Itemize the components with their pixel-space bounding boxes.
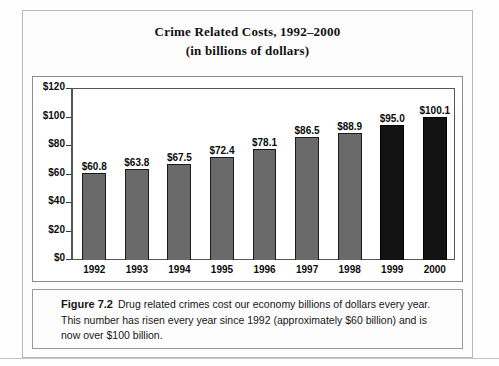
x-axis: 199219931994199519961997199819992000 [73, 262, 456, 280]
bar-value-label: $63.8 [124, 157, 149, 168]
bar-slot: $60.8 [73, 89, 116, 260]
bar-slot: $78.1 [243, 89, 286, 260]
figure-caption-box: Figure 7.2Drug related crimes cost our e… [32, 289, 463, 349]
bar-value-label: $67.5 [167, 152, 192, 163]
figure-caption-body: Drug related crimes cost our economy bil… [61, 298, 430, 341]
bar-value-label: $60.8 [82, 161, 107, 172]
y-axis: $120$100$80$60$40$20$0 [33, 88, 72, 260]
x-axis-tick-label: 1998 [328, 262, 371, 280]
chart-subtitle: (in billions of dollars) [22, 43, 473, 59]
y-axis-tick-label: $0 [54, 252, 65, 263]
x-axis-tick-label: 1992 [73, 262, 116, 280]
bar-slot: $86.5 [286, 89, 329, 260]
bar-1999[interactable]: $95.0 [380, 125, 404, 260]
y-axis-tick-label: $100 [43, 110, 65, 121]
bar-1998[interactable]: $88.9 [338, 133, 362, 260]
bar-value-label: $72.4 [209, 145, 234, 156]
y-axis-tick-label: $40 [48, 195, 65, 206]
bar-1993[interactable]: $63.8 [125, 169, 149, 260]
chart-title: Crime Related Costs, 1992–2000 [22, 24, 473, 40]
bar-1996[interactable]: $78.1 [253, 149, 277, 260]
x-axis-tick-label: 1994 [158, 262, 201, 280]
bar-1992[interactable]: $60.8 [82, 173, 106, 260]
chart-container: $120$100$80$60$40$20$0 $60.8$63.8$67.5$7… [32, 76, 463, 282]
x-axis-tick-label: 1995 [201, 262, 244, 280]
bar-1995[interactable]: $72.4 [210, 157, 234, 260]
bar-value-label: $88.9 [337, 121, 362, 132]
bar-slot: $63.8 [116, 89, 159, 260]
y-axis-tick-label: $120 [43, 81, 65, 92]
bar-value-label: $100.1 [419, 105, 450, 116]
scanned-page: Crime Related Costs, 1992–2000 (in billi… [0, 0, 499, 366]
bar-slot: $95.0 [371, 89, 414, 260]
bar-series: $60.8$63.8$67.5$72.4$78.1$86.5$88.9$95.0… [73, 89, 456, 260]
x-axis-tick-label: 1993 [116, 262, 159, 280]
chart-title-block: Crime Related Costs, 1992–2000 (in billi… [22, 24, 473, 59]
figure-number: Figure 7.2 [61, 298, 113, 310]
x-axis-tick-label: 1997 [286, 262, 329, 280]
bar-slot: $100.1 [414, 89, 457, 260]
bar-value-label: $86.5 [295, 125, 320, 136]
y-axis-tick-label: $20 [48, 224, 65, 235]
bar-slot: $88.9 [328, 89, 371, 260]
y-axis-tick-label: $60 [48, 167, 65, 178]
bar-slot: $72.4 [201, 89, 244, 260]
page-bottom-rule [0, 358, 499, 359]
figure-caption: Figure 7.2Drug related crimes cost our e… [61, 297, 440, 344]
bar-1997[interactable]: $86.5 [295, 137, 319, 260]
x-axis-tick-label: 1996 [243, 262, 286, 280]
bar-slot: $67.5 [158, 89, 201, 260]
x-axis-tick-label: 2000 [414, 262, 457, 280]
y-axis-tick-label: $80 [48, 138, 65, 149]
bar-value-label: $95.0 [380, 113, 405, 124]
bar-value-label: $78.1 [252, 137, 277, 148]
x-axis-tick-label: 1999 [371, 262, 414, 280]
bar-2000[interactable]: $100.1 [423, 117, 447, 260]
bar-1994[interactable]: $67.5 [167, 164, 191, 260]
